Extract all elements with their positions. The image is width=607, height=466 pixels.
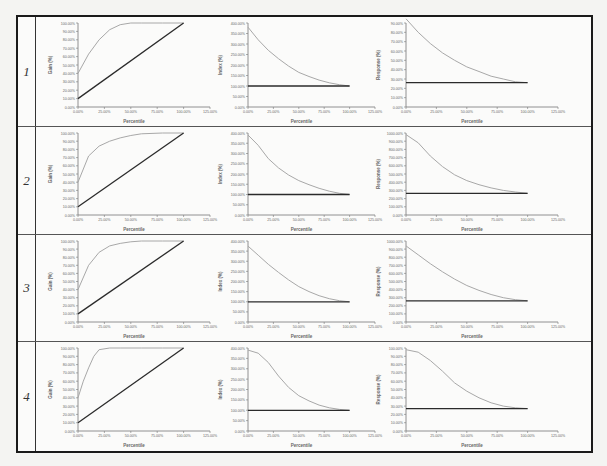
x-axis-label: Percentile [291,119,313,124]
y-tick-label: 400.00% [231,132,246,136]
baseline-line [78,241,184,314]
x-tick-label: 0.00% [401,325,412,329]
x-axis-label: Percentile [123,227,145,232]
figure-row-3: 3 0.00%10.00%20.00%30.00%40.00%50.00%60.… [18,235,591,342]
y-tick-label: 100.00% [389,347,404,351]
y-tick-label: 80.00% [63,256,76,260]
row-number: 4 [18,389,35,405]
y-tick-label: 40.00% [391,396,404,400]
y-tick-label: 10.00% [63,421,76,425]
y-tick-label: 50.00% [391,59,404,63]
x-tick-label: 50.00% [125,325,138,329]
y-tick-label: 70.00% [63,47,76,51]
model-curve [406,19,528,83]
baseline-line [78,23,184,99]
model-curve [248,27,350,86]
y-tick-label: 100.00% [231,409,246,413]
y-tick-label: 100.00% [231,193,246,197]
x-tick-label: 75.00% [318,434,331,438]
y-tick-label: 250.00% [231,162,246,166]
x-tick-label: 100.00% [521,325,536,329]
y-tick-label: 0.00% [65,106,76,110]
model-curve [248,246,350,302]
x-tick-label: 50.00% [461,110,474,114]
y-tick-label: 200.00% [231,388,246,392]
y-axis-label: Response (%) [376,159,381,189]
figure-row-2: 2 0.00%10.00%20.00%30.00%40.00%50.00%60.… [18,127,591,235]
x-tick-label: 50.00% [461,218,474,222]
y-tick-label: 40.00% [63,181,76,185]
row-number-cell: 1 [18,17,36,126]
y-tick-label: 0.00% [65,430,76,434]
y-tick-label: 30.00% [63,296,76,300]
y-tick-label: 60.00% [391,380,404,384]
y-tick-label: 30.00% [63,80,76,84]
x-tick-label: 0.00% [243,110,254,114]
y-tick-label: 200.00% [231,64,246,68]
y-tick-label: 90.00% [63,355,76,359]
y-tick-label: 90.00% [63,248,76,252]
x-tick-label: 125.00% [551,218,566,222]
y-tick-label: 100.00% [61,132,76,136]
x-tick-label: 25.00% [267,218,280,222]
y-tick-label: 50.00% [63,280,76,284]
figure-row-1: 1 0.00%10.00%20.00%30.00%40.00%50.00%60.… [18,17,591,127]
model-curve [78,133,184,182]
x-tick-label: 100.00% [343,110,358,114]
y-tick-label: 300.00% [389,296,404,300]
y-tick-label: 250.00% [231,270,246,274]
x-axis-label: Percentile [291,443,313,448]
y-axis-label: Gain (%) [48,272,53,291]
x-tick-label: 25.00% [98,325,111,329]
y-tick-label: 20.00% [63,197,76,201]
y-tick-label: 200.00% [231,173,246,177]
y-tick-label: 600.00% [389,164,404,168]
y-tick-label: 500.00% [389,280,404,284]
x-tick-label: 25.00% [430,218,443,222]
row-number-cell: 3 [18,235,36,341]
y-tick-label: 350.00% [231,32,246,36]
y-tick-label: 100.00% [389,312,404,316]
y-tick-label: 20.00% [63,89,76,93]
x-tick-label: 75.00% [318,325,331,329]
x-axis-label: Percentile [291,227,313,232]
y-tick-label: 50.00% [63,173,76,177]
y-tick-label: 150.00% [231,290,246,294]
model-curve [78,348,184,398]
x-tick-label: 0.00% [243,218,254,222]
y-tick-label: 20.00% [391,87,404,91]
y-tick-label: 70.00% [63,371,76,375]
x-tick-label: 50.00% [293,218,306,222]
y-tick-label: 350.00% [231,250,246,254]
y-tick-label: 0.00% [235,430,246,434]
y-tick-label: 50.00% [63,388,76,392]
baseline-line [78,348,184,423]
y-tick-label: 80.00% [391,363,404,367]
y-tick-label: 80.00% [63,148,76,152]
y-tick-label: 0.00% [235,214,246,218]
y-tick-label: 150.00% [231,183,246,187]
x-tick-label: 100.00% [177,218,192,222]
index-chart: 0.00%50.00%100.00%150.00%200.00%250.00%3… [210,17,385,127]
y-tick-label: 350.00% [231,357,246,361]
y-tick-label: 70.00% [391,40,404,44]
x-axis-label: Percentile [123,334,145,339]
x-tick-label: 100.00% [521,434,536,438]
x-tick-label: 100.00% [177,325,192,329]
y-tick-label: 40.00% [63,288,76,292]
x-axis-label: Percentile [461,443,483,448]
x-tick-label: 50.00% [461,325,474,329]
y-tick-label: 60.00% [391,50,404,54]
model-curve [406,135,528,194]
y-tick-label: 80.00% [391,31,404,35]
x-tick-label: 50.00% [125,434,138,438]
y-tick-label: 400.00% [389,288,404,292]
y-tick-label: 70.00% [63,264,76,268]
x-tick-label: 75.00% [491,110,504,114]
y-tick-label: 60.00% [63,272,76,276]
y-tick-label: 60.00% [63,380,76,384]
y-tick-label: 0.00% [65,321,76,325]
y-tick-label: 30.00% [63,405,76,409]
y-axis-label: Response (%) [376,374,381,404]
index-chart: 0.00%50.00%100.00%150.00%200.00%250.00%3… [210,127,385,235]
